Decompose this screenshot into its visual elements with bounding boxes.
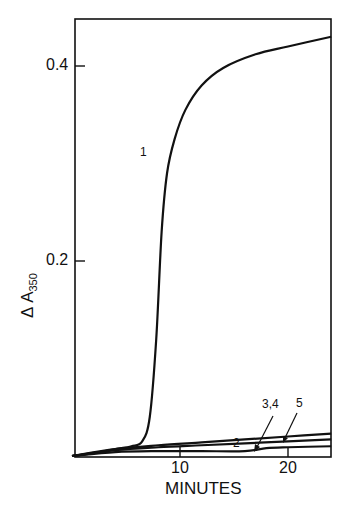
y-tick-label: 0.2 — [46, 251, 68, 269]
y-axis-label: Δ A350 — [18, 273, 39, 318]
curve-1 — [72, 37, 331, 456]
curves — [72, 37, 331, 456]
curve-label-2: 2 — [233, 436, 240, 450]
curve-label-1: 1 — [140, 145, 147, 159]
x-tick-label: 10 — [171, 459, 189, 477]
y-tick-label: 0.4 — [46, 56, 68, 74]
curve-label-5: 5 — [296, 396, 303, 410]
curve-label-3-4: 3,4 — [262, 397, 279, 411]
arrow-3-4 — [256, 416, 273, 449]
x-axis-label: MINUTES — [165, 479, 242, 499]
x-tick-label: 20 — [279, 459, 297, 477]
